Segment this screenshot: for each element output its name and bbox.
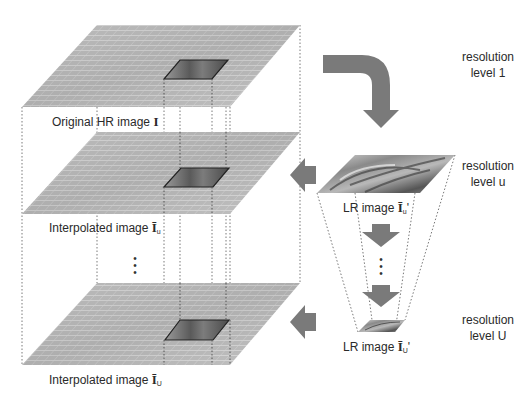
- resolution-level-U: resolution level U: [448, 312, 528, 344]
- curved-down-arrow-icon: [323, 55, 399, 128]
- label-text: LR image: [343, 340, 398, 354]
- label-text: LR image: [343, 201, 398, 215]
- prime: ': [408, 340, 410, 354]
- label-original-hr-image: Original HR image I: [52, 115, 158, 129]
- label-text: Original HR image: [52, 115, 153, 129]
- plane-hr-image: [22, 25, 300, 107]
- resolution-line2: level U: [448, 328, 528, 344]
- plane-interpolated-U: [22, 283, 300, 365]
- resolution-level-1: resolution level 1: [448, 49, 528, 81]
- label-lr-image-u: LR image Īu': [343, 201, 409, 219]
- label-lr-image-U: LR image ĪU': [343, 340, 410, 358]
- resolution-line2: level 1: [448, 65, 528, 81]
- ellipsis-vertical-right: •••: [376, 256, 386, 277]
- resolution-line1: resolution: [448, 49, 528, 65]
- down-arrow-icon: [362, 285, 400, 307]
- lr-image-U: [358, 320, 405, 332]
- down-arrow-icon: [362, 224, 400, 247]
- label-text: Interpolated image: [49, 221, 152, 235]
- left-arrow-icon: [290, 158, 316, 192]
- plane-interpolated-u: [22, 132, 300, 214]
- lr-image-u: [317, 155, 455, 193]
- label-interpolated-image-U: Interpolated image ĪU: [49, 373, 162, 391]
- prime: ': [407, 201, 409, 215]
- resolution-line1: resolution: [448, 158, 528, 174]
- ellipsis-vertical-left: •••: [130, 255, 140, 276]
- symbol-I: I: [153, 114, 158, 129]
- subscript: U: [157, 380, 162, 387]
- resolution-line1: resolution: [448, 312, 528, 328]
- subscript: u: [157, 228, 161, 235]
- left-arrow-icon: [290, 305, 316, 339]
- label-text: Interpolated image: [49, 373, 152, 387]
- resolution-level-u: resolution level u: [448, 158, 528, 190]
- label-interpolated-image-u: Interpolated image Īu: [49, 221, 161, 239]
- resolution-line2: level u: [448, 174, 528, 190]
